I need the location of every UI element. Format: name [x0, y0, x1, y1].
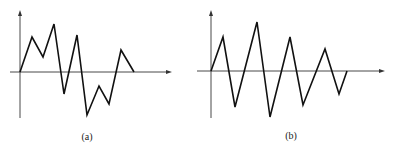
waveform-diagram	[0, 0, 394, 151]
x-axis-arrow-a	[166, 70, 172, 74]
panel-b	[197, 10, 385, 118]
panel-a	[10, 10, 172, 118]
caption-b: (b)	[285, 130, 297, 141]
caption-a: (a)	[81, 131, 92, 142]
signal-a	[20, 24, 134, 115]
x-axis-arrow-b	[379, 69, 385, 73]
y-axis-arrow-b	[209, 10, 213, 16]
y-axis-arrow-a	[18, 10, 22, 16]
signal-b	[211, 22, 347, 117]
